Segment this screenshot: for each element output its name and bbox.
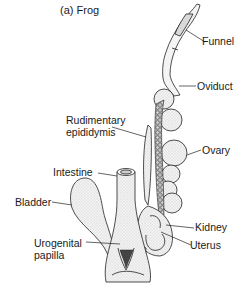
label-funnel: Funnel bbox=[202, 36, 234, 47]
label-urogenital-papilla-2: papilla bbox=[34, 250, 64, 261]
label-oviduct: Oviduct bbox=[197, 81, 233, 92]
label-ovary: Ovary bbox=[202, 145, 230, 156]
label-urogenital-papilla-1: Urogenital bbox=[34, 238, 82, 249]
label-rudimentary-epididymis-1: Rudimentary bbox=[66, 115, 126, 126]
label-intestine: Intestine bbox=[53, 167, 93, 178]
figure-title: (a) Frog bbox=[60, 5, 99, 16]
oviduct-shape bbox=[163, 4, 200, 96]
label-rudimentary-epididymis-2: epididymis bbox=[66, 127, 116, 138]
label-kidney: Kidney bbox=[195, 222, 227, 233]
epididymis-shape bbox=[144, 125, 152, 205]
label-bladder: Bladder bbox=[15, 197, 51, 208]
label-uterus: Uterus bbox=[190, 240, 221, 251]
